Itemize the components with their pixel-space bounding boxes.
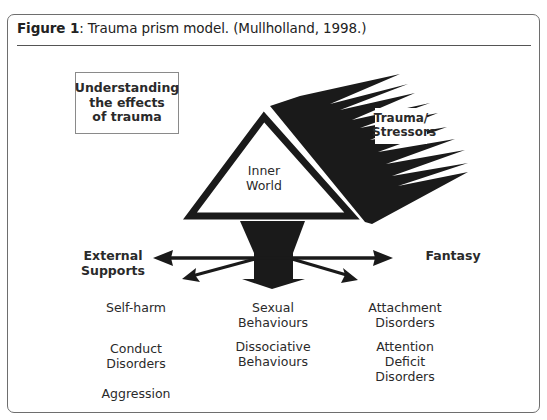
down-arrow-icon bbox=[240, 221, 305, 289]
outcome-self-harm: Self-harm bbox=[96, 300, 176, 315]
arrow-right-icon bbox=[373, 250, 393, 266]
prism-label: Inner World bbox=[230, 163, 298, 193]
outcome-attachment-disorders: Attachment Disorders bbox=[360, 300, 450, 330]
external-supports-label: External Supports bbox=[68, 248, 158, 278]
fantasy-label: Fantasy bbox=[418, 248, 488, 263]
outcome-dissociative-behaviours: Dissociative Behaviours bbox=[228, 339, 318, 369]
outcome-aggression: Aggression bbox=[96, 386, 176, 401]
diagonal-left-line bbox=[192, 259, 255, 276]
stressor-label: Trauma/ Stressors bbox=[372, 111, 430, 139]
diagonal-right-line bbox=[292, 259, 350, 276]
outcome-attention-deficit-disorders: Attention Deficit Disorders bbox=[360, 339, 450, 384]
outcome-sexual-behaviours: Sexual Behaviours bbox=[228, 300, 318, 330]
outcome-conduct-disorders: Conduct Disorders bbox=[96, 341, 176, 371]
